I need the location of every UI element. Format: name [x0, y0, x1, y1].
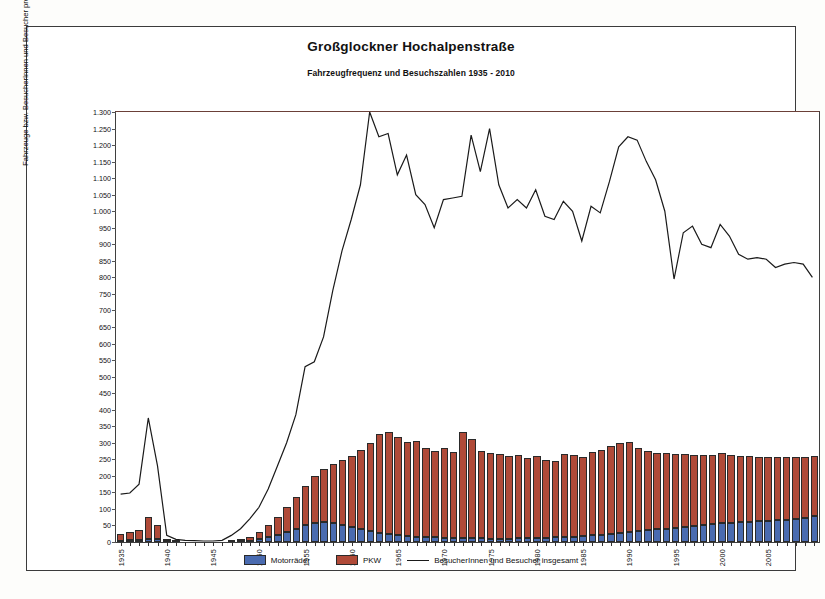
y-axis-tick-label: 1.200 [93, 141, 111, 150]
bar-2000 [718, 112, 726, 542]
bar-1938 [145, 112, 153, 542]
x-axis-tick-mark [555, 542, 556, 546]
bar-1963 [376, 112, 384, 542]
bar-1971 [450, 112, 458, 542]
bar-1946 [219, 112, 227, 542]
y-axis-tick-mark [112, 525, 116, 526]
x-axis-tick-mark [398, 542, 399, 546]
y-axis-tick-mark [112, 476, 116, 477]
bar-segment-motorraeder [764, 521, 772, 542]
y-axis-tick-mark [112, 195, 116, 196]
bar-segment-pkw [718, 453, 726, 523]
x-axis-tick-mark [620, 542, 621, 546]
bar-segment-motorraeder [376, 533, 384, 542]
x-axis-tick-mark [361, 542, 362, 546]
x-axis-tick-mark [389, 542, 390, 546]
chart-title: Großglockner Hochalpenstraße [27, 39, 795, 54]
bar-segment-pkw [450, 452, 458, 538]
y-axis-tick-label: 550 [99, 356, 111, 365]
bar-segment-pkw [524, 458, 532, 538]
bar-segment-pkw [700, 455, 708, 524]
bar-1967 [413, 112, 421, 542]
x-axis-tick-mark [287, 542, 288, 546]
bar-segment-pkw [774, 457, 782, 520]
bar-1978 [515, 112, 523, 542]
y-axis-tick-mark [112, 509, 116, 510]
y-axis-tick-label: 0 [107, 538, 111, 547]
y-axis-tick-mark [112, 162, 116, 163]
bar-segment-pkw [376, 434, 384, 533]
bar-segment-pkw [413, 441, 421, 537]
bar-segment-motorraeder [746, 522, 754, 543]
bar-segment-pkw [274, 517, 282, 535]
bar-segment-pkw [357, 450, 365, 529]
x-axis-tick-mark [509, 542, 510, 546]
x-axis-tick-mark [611, 542, 612, 546]
x-axis-tick-mark [583, 542, 584, 546]
bar-segment-pkw [293, 497, 301, 528]
bar-1979 [524, 112, 532, 542]
bar-1975 [487, 112, 495, 542]
bar-segment-motorraeder [357, 529, 365, 542]
bar-1977 [505, 112, 513, 542]
bar-1973 [468, 112, 476, 542]
bar-segment-pkw [579, 457, 587, 536]
y-axis-tick-mark [112, 261, 116, 262]
y-axis-tick-label: 100 [99, 504, 111, 513]
y-axis-tick-label: 150 [99, 488, 111, 497]
bar-1955 [302, 112, 310, 542]
bar-segment-pkw [404, 442, 412, 536]
x-axis-tick-mark [454, 542, 455, 546]
y-axis-tick-mark [112, 129, 116, 130]
x-axis-tick-mark [158, 542, 159, 546]
x-axis-tick-mark [213, 542, 214, 546]
bar-1944 [200, 112, 208, 542]
bar-1970 [441, 112, 449, 542]
x-axis-tick-mark [759, 542, 760, 546]
y-axis-tick-mark [112, 344, 116, 345]
bar-segment-motorraeder [626, 532, 634, 542]
bar-segment-pkw [320, 469, 328, 522]
bar-segment-motorraeder [801, 518, 809, 542]
bar-1988 [607, 112, 615, 542]
bar-segment-pkw [607, 446, 615, 534]
x-axis-tick-mark [666, 542, 667, 546]
x-axis-tick-mark [713, 542, 714, 546]
y-axis-tick-label: 1.100 [93, 174, 111, 183]
bar-segment-pkw [690, 455, 698, 526]
y-axis-tick-mark [112, 294, 116, 295]
bar-segment-pkw [589, 452, 597, 535]
bar-1998 [700, 112, 708, 542]
bar-1996 [681, 112, 689, 542]
bar-segment-pkw [626, 442, 634, 531]
y-axis-tick-label: 750 [99, 289, 111, 298]
bar-segment-motorraeder [394, 535, 402, 542]
x-axis-tick-mark [805, 542, 806, 546]
bar-1957 [320, 112, 328, 542]
y-axis-tick-label: 500 [99, 372, 111, 381]
y-axis-tick-mark [112, 310, 116, 311]
bar-segment-pkw [385, 432, 393, 535]
bar-segment-motorraeder [385, 534, 393, 542]
y-axis-tick-mark [112, 244, 116, 245]
bar-1972 [459, 112, 467, 542]
y-axis-tick-label: 1.250 [93, 124, 111, 133]
bar-segment-pkw [672, 454, 680, 528]
bar-segment-pkw [431, 451, 439, 538]
y-axis-tick-mark [112, 377, 116, 378]
bar-2009 [801, 112, 809, 542]
bar-segment-motorraeder [589, 535, 597, 542]
x-axis-tick-mark [731, 542, 732, 546]
x-axis-tick-mark [518, 542, 519, 546]
bar-segment-pkw [135, 530, 143, 540]
bar-segment-motorraeder [727, 523, 735, 542]
bar-1950 [256, 112, 264, 542]
bar-segment-motorraeder [737, 522, 745, 542]
bar-segment-motorraeder [700, 525, 708, 542]
x-axis-tick-mark [463, 542, 464, 546]
bar-segment-pkw [644, 451, 652, 530]
bar-1969 [431, 112, 439, 542]
bar-1935 [117, 112, 125, 542]
bar-1987 [598, 112, 606, 542]
bar-segment-motorraeder [690, 526, 698, 542]
